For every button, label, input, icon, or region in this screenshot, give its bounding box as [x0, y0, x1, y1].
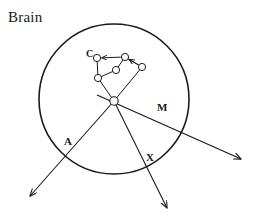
ray-label-x: X — [146, 152, 154, 163]
page-title: Brain — [8, 10, 42, 25]
ray-label-a: A — [64, 136, 72, 147]
cluster-arrow-edge-0 — [102, 57, 121, 58]
cluster-label-c: C — [86, 49, 93, 59]
hub-node — [110, 97, 118, 105]
cluster-node-c1 — [93, 54, 100, 61]
figure-canvas: Brain C A X M — [0, 0, 253, 217]
hub-node-circle — [110, 97, 118, 105]
cluster-node-c3 — [138, 63, 145, 70]
cluster-node-c4 — [112, 66, 119, 73]
ray-line-x — [114, 101, 167, 208]
ray-lines-group — [30, 95, 241, 208]
cluster-node-c5 — [94, 74, 101, 81]
brain-diagram — [0, 0, 253, 217]
ray-label-m: M — [157, 102, 167, 113]
cluster-arrow-edge-1 — [129, 59, 138, 64]
cluster-node-c2 — [121, 53, 128, 60]
ray-line-a — [30, 101, 114, 196]
